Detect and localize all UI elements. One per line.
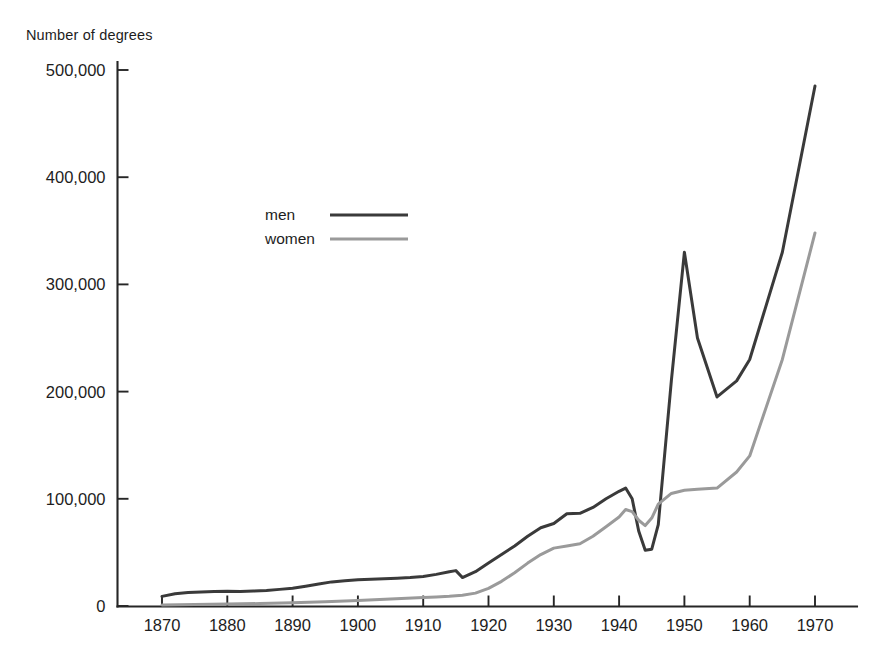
x-tick-label: 1890 [274, 616, 311, 634]
legend-label-men: men [265, 206, 295, 223]
data-series-group [162, 86, 815, 605]
x-tick-label: 1930 [535, 616, 572, 634]
y-tick-label: 400,000 [46, 168, 106, 186]
x-tick-label: 1900 [340, 616, 377, 634]
y-tick-label: 0 [96, 597, 105, 615]
series-line-women [162, 233, 815, 605]
x-tick-label: 1960 [731, 616, 768, 634]
x-tick-label: 1970 [797, 616, 834, 634]
x-tick-label: 1910 [405, 616, 442, 634]
y-tick-label: 200,000 [46, 383, 106, 401]
axes-group [118, 62, 858, 607]
y-tick-label: 100,000 [46, 490, 106, 508]
x-tick-label: 1920 [470, 616, 507, 634]
line-chart-plot: 0100,000200,000300,000400,000500,000 187… [0, 0, 885, 657]
chart-legend: menwomen [264, 206, 408, 247]
y-axis-tick-labels: 0100,000200,000300,000400,000500,000 [46, 61, 106, 615]
x-tick-label: 1870 [144, 616, 181, 634]
series-line-men [162, 86, 815, 596]
y-tick-label: 500,000 [46, 61, 106, 79]
x-tick-label: 1880 [209, 616, 246, 634]
legend-label-women: women [264, 230, 315, 247]
chart-container: Number of degrees 0100,000200,000300,000… [0, 0, 885, 657]
x-tick-label: 1940 [601, 616, 638, 634]
x-tick-label: 1950 [666, 616, 703, 634]
y-axis-ticks [118, 70, 129, 606]
y-tick-label: 300,000 [46, 275, 106, 293]
x-axis-tick-labels: 1870188018901900191019201930194019501960… [144, 616, 834, 634]
